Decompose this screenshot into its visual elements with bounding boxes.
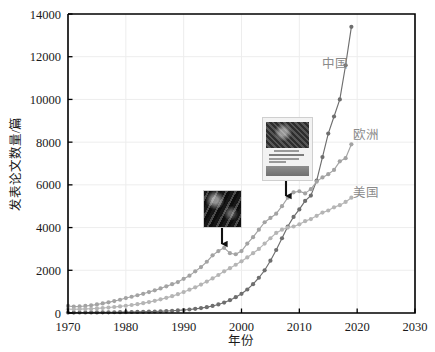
data-point [291, 190, 295, 194]
data-point [234, 295, 238, 299]
data-point [251, 251, 255, 255]
data-point [72, 307, 76, 311]
data-point [245, 287, 249, 291]
data-point [309, 187, 313, 191]
data-point [141, 292, 145, 296]
data-point [158, 286, 162, 290]
inset-image-left [203, 190, 242, 228]
data-point [234, 263, 238, 267]
data-point [164, 296, 168, 300]
data-point [77, 307, 81, 311]
data-point [176, 280, 180, 284]
data-point [326, 132, 330, 136]
data-point [280, 236, 284, 240]
data-point [332, 205, 336, 209]
data-point [135, 302, 139, 306]
data-point [338, 159, 342, 163]
data-point [112, 299, 116, 303]
data-point [228, 251, 232, 255]
series-label-3: 美国 [353, 186, 379, 200]
data-point [187, 307, 191, 311]
data-point [210, 304, 214, 308]
data-point [176, 308, 180, 312]
data-point [193, 269, 197, 273]
data-point [263, 220, 267, 224]
series-label-1: 中国 [322, 56, 348, 71]
data-point [326, 172, 330, 176]
data-point [205, 280, 209, 284]
data-point [332, 168, 336, 172]
data-point [274, 248, 278, 252]
y-tick-label: 4000 [36, 221, 61, 235]
y-axis-title: 发表论文数量/篇 [8, 117, 23, 211]
data-point [130, 295, 134, 299]
data-point [297, 207, 301, 211]
x-tick-labels: 1970198019902000201020202030 [56, 320, 428, 334]
data-point [332, 114, 336, 118]
data-point [309, 193, 313, 197]
data-point [239, 292, 243, 296]
data-point [263, 268, 267, 272]
data-point [297, 222, 301, 226]
data-point [326, 208, 330, 212]
data-point [338, 203, 342, 207]
data-point [234, 252, 238, 256]
data-point [210, 253, 214, 257]
data-point [263, 241, 267, 245]
data-point [83, 307, 87, 311]
y-tick-labels: 02000400060008000100001200014000 [30, 8, 61, 321]
x-tick-label: 1980 [113, 320, 138, 334]
x-tick-label: 2030 [403, 320, 428, 334]
data-point [349, 25, 353, 29]
x-tick-label: 2010 [287, 320, 312, 334]
data-point [309, 217, 313, 221]
data-point [286, 196, 290, 200]
data-point [280, 228, 284, 232]
data-point [101, 301, 105, 305]
data-point [182, 290, 186, 294]
data-point [320, 155, 324, 159]
data-point [280, 204, 284, 208]
x-tick-label: 2020 [345, 320, 370, 334]
inset-image-right [262, 117, 313, 181]
inset-right-rule-1 [274, 150, 299, 151]
inset-right-band [266, 166, 308, 177]
data-point [124, 304, 128, 308]
inset-left-photo [204, 191, 241, 227]
data-point [170, 282, 174, 286]
inset-right-rule-4 [269, 161, 286, 162]
data-point [297, 189, 301, 193]
data-point [135, 293, 139, 297]
data-point [147, 290, 151, 294]
y-tick-label: 12000 [30, 50, 61, 64]
data-point [222, 246, 226, 250]
data-point [303, 199, 307, 203]
data-point [344, 200, 348, 204]
data-point [245, 241, 249, 245]
data-point [205, 260, 209, 264]
y-tick-label: 2000 [36, 264, 61, 278]
data-point [216, 302, 220, 306]
data-point [199, 306, 203, 310]
data-point [286, 225, 290, 229]
data-point [101, 306, 105, 310]
y-tick-label: 0 [55, 307, 61, 321]
data-point [303, 219, 307, 223]
data-point [95, 306, 99, 310]
series-label-2: 欧洲 [353, 128, 379, 142]
data-point [170, 294, 174, 298]
data-point [187, 288, 191, 292]
data-point [164, 284, 168, 288]
data-point [187, 274, 191, 278]
data-point [315, 214, 319, 218]
data-point [274, 231, 278, 235]
inset-right-rule-2 [269, 154, 303, 156]
data-point [222, 269, 226, 273]
data-point [112, 305, 116, 309]
data-point [320, 211, 324, 215]
data-point [158, 297, 162, 301]
data-point [216, 249, 220, 253]
x-axis-title: 年份 [228, 334, 254, 348]
publications-line-chart: 02000400060008000100001200014000 1970198… [0, 0, 435, 352]
data-point [245, 255, 249, 259]
